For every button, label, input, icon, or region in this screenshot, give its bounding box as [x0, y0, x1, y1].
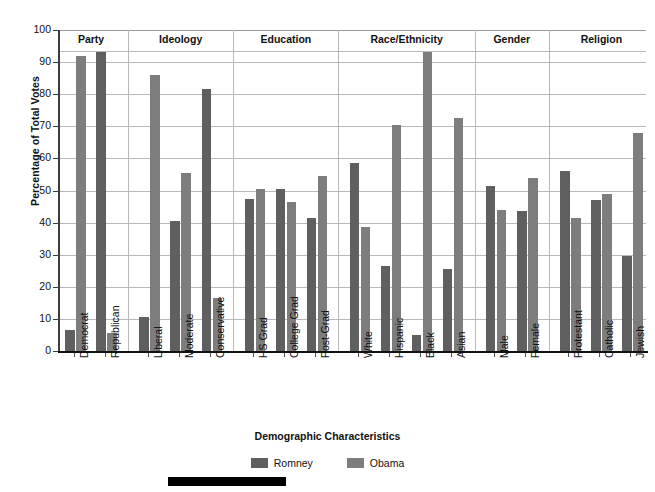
y-axis-tick-mark [53, 319, 58, 320]
bar-romney-white [350, 163, 360, 351]
legend-item-romney: Romney [251, 457, 313, 469]
x-axis-tick-label-democrat: Democrat [78, 312, 90, 358]
x-axis-tick-mark [74, 353, 75, 357]
x-axis-tick-label-hispanic: Hispanic [393, 318, 405, 358]
legend-label: Romney [274, 457, 313, 469]
gridline [60, 62, 646, 63]
y-axis-title: Percentage of Total Votes [29, 36, 41, 246]
y-axis-tick-label: 30 [7, 248, 51, 260]
gridline [60, 126, 646, 127]
y-axis-tick-label: 80 [7, 87, 51, 99]
bar-romney-hs-grad [245, 199, 255, 351]
y-axis-tick-mark [53, 287, 58, 288]
legend-label: Obama [370, 457, 404, 469]
bar-romney-post-grad [307, 218, 317, 351]
x-axis-tick-mark [315, 353, 316, 357]
y-axis-tick-label: 50 [7, 184, 51, 196]
y-axis-tick-label: 20 [7, 280, 51, 292]
y-axis-tick-mark [53, 191, 58, 192]
group-separator [549, 30, 550, 351]
y-axis-tick-label: 60 [7, 151, 51, 163]
bar-obama-democrat [76, 56, 86, 351]
group-title-religion: Religion [555, 33, 648, 45]
x-axis-tick-mark [105, 353, 106, 357]
x-axis-tick-label-white: White [362, 331, 374, 358]
gridline [60, 94, 646, 95]
group-title-gender: Gender [481, 33, 543, 45]
bar-romney-female [517, 211, 527, 351]
x-axis-tick-mark [494, 353, 495, 357]
bar-romney-democrat [65, 330, 75, 351]
x-axis-tick-label-catholic: Catholic [603, 320, 615, 358]
x-axis-tick-mark [179, 353, 180, 357]
y-axis-tick-mark [53, 94, 58, 95]
y-axis-tick-label: 0 [7, 344, 51, 356]
legend-swatch-icon [251, 458, 268, 468]
x-axis-tick-label-conservative: Conservative [214, 297, 226, 358]
y-axis-tick-mark [53, 158, 58, 159]
x-axis-tick-label-protestant: Protestant [572, 310, 584, 358]
x-axis-tick-mark [630, 353, 631, 357]
bar-romney-college-grad [276, 189, 286, 351]
footer-black-bar [168, 477, 286, 486]
y-axis-tick-mark [53, 223, 58, 224]
legend-swatch-icon [347, 458, 364, 468]
y-axis-tick-label: 70 [7, 119, 51, 131]
y-axis-tick-mark [53, 62, 58, 63]
plot-area: PartyIdeologyEducationRace/EthnicityGend… [58, 30, 646, 351]
bar-romney-republican [96, 52, 106, 351]
gridline [60, 30, 646, 31]
bar-romney-conservative [202, 89, 212, 351]
x-axis-tick-label-black: Black [424, 332, 436, 358]
y-axis-tick-label: 100 [7, 23, 51, 35]
x-axis-tick-mark [599, 353, 600, 357]
bar-obama-jewish [633, 133, 643, 351]
x-axis-tick-label-male: Male [498, 335, 510, 358]
x-axis-tick-label-asian: Asian [455, 332, 467, 358]
x-axis-tick-mark [284, 353, 285, 357]
bar-obama-black [423, 52, 433, 351]
x-axis-line [58, 351, 648, 353]
bar-romney-protestant [560, 171, 570, 351]
y-axis-tick-mark [53, 126, 58, 127]
bar-obama-liberal [150, 75, 160, 351]
x-axis-tick-mark [525, 353, 526, 357]
x-axis-title: Demographic Characteristics [0, 430, 655, 442]
y-axis-tick-mark [53, 255, 58, 256]
x-axis-tick-mark [358, 353, 359, 357]
group-title-party: Party [60, 33, 122, 45]
bar-romney-male [486, 186, 496, 351]
group-title-ideology: Ideology [134, 33, 227, 45]
x-axis-tick-mark [148, 353, 149, 357]
bar-romney-catholic [591, 200, 601, 351]
bar-chart-figure: Percentage of Total Votes PartyIdeologyE… [0, 0, 655, 492]
legend-item-obama: Obama [347, 457, 404, 469]
y-axis-tick-label: 10 [7, 312, 51, 324]
x-axis-tick-mark [568, 353, 569, 357]
bar-obama-male [497, 210, 507, 351]
y-axis-tick-label: 90 [7, 55, 51, 67]
x-axis-tick-label-college-grad: College Grad [288, 296, 300, 358]
bar-romney-moderate [170, 221, 180, 351]
y-axis-tick-label: 40 [7, 216, 51, 228]
bar-romney-jewish [622, 256, 632, 351]
x-axis-tick-label-post-grad: Post-Grad [319, 310, 331, 358]
legend: RomneyObama [0, 457, 655, 469]
group-separator [338, 30, 339, 351]
x-axis-tick-label-moderate: Moderate [183, 314, 195, 358]
bar-romney-black [412, 335, 422, 351]
x-axis-tick-label-jewish: Jewish [634, 326, 646, 358]
x-axis-tick-label-female: Female [529, 323, 541, 358]
group-separator [475, 30, 476, 351]
x-axis-tick-mark [210, 353, 211, 357]
x-axis-tick-mark [451, 353, 452, 357]
x-axis-tick-label-liberal: Liberal [152, 326, 164, 358]
group-separator [128, 30, 129, 351]
x-axis-tick-label-hs-grad: HS Grad [257, 317, 269, 358]
x-axis-tick-label-republican: Republican [109, 305, 121, 358]
bar-romney-hispanic [381, 266, 391, 351]
y-axis-tick-mark [53, 30, 58, 31]
bar-obama-asian [454, 118, 464, 351]
x-axis-tick-mark [389, 353, 390, 357]
x-axis-tick-mark [420, 353, 421, 357]
